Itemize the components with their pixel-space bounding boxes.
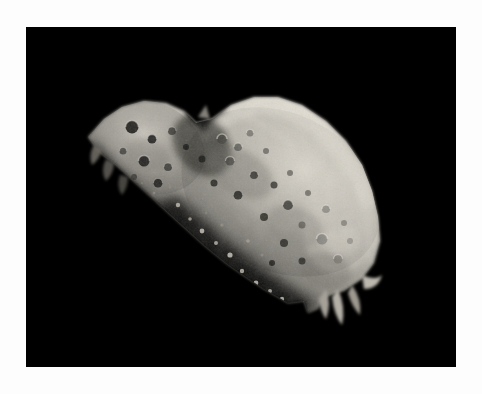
asteroid-render: Grayscale spacecraft photograph of an ir… — [26, 27, 456, 367]
image-page: Grayscale spacecraft photograph of an ir… — [0, 0, 482, 394]
asteroid-photograph: Grayscale spacecraft photograph of an ir… — [26, 27, 456, 367]
